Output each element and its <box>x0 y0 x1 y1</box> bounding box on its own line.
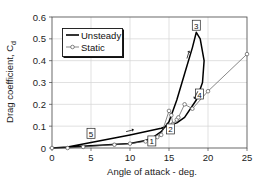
static-data-point <box>191 107 195 111</box>
legend: Unsteady Static <box>63 29 125 59</box>
x-tick-label: 15 <box>164 152 175 163</box>
static-data-point <box>50 146 54 150</box>
y-tick-label: 0.5 <box>33 33 46 44</box>
drag-coefficient-chart: 0510152025 00.10.20.30.40.50.6 12345 Uns… <box>0 0 260 185</box>
legend-static-label: Static <box>81 42 105 53</box>
y-tick-label: 0 <box>41 143 46 154</box>
y-axis-ticks: 00.10.20.30.40.50.6 <box>33 12 52 154</box>
annotation-label-2: 2 <box>168 125 173 134</box>
svg-text:Drag coefficient, Cd: Drag coefficient, Cd <box>4 41 17 123</box>
static-data-point <box>128 142 132 146</box>
annotation-label-5: 5 <box>89 130 94 139</box>
x-tick-label: 20 <box>203 152 214 163</box>
y-tick-label: 0.6 <box>33 12 46 23</box>
x-axis-ticks: 0510152025 <box>49 148 252 163</box>
legend-unsteady-label: Unsteady <box>81 30 121 41</box>
x-axis-label: Angle of attack - deg. <box>107 166 197 177</box>
y-axis-label: Drag coefficient, Cd <box>4 41 17 123</box>
y-axis-label-sub: d <box>10 41 17 45</box>
static-data-point <box>206 89 210 93</box>
y-tick-label: 0.4 <box>33 55 46 66</box>
x-tick-label: 10 <box>125 152 136 163</box>
x-tick-label: 0 <box>49 152 54 163</box>
static-data-point <box>81 145 85 149</box>
y-axis-label-text: Drag coefficient, C <box>4 45 15 123</box>
x-tick-label: 25 <box>242 152 253 163</box>
y-tick-label: 0.1 <box>33 121 46 132</box>
static-data-point <box>159 133 163 137</box>
static-data-point <box>177 116 181 120</box>
y-tick-label: 0.3 <box>33 77 46 88</box>
static-data-point <box>144 140 148 144</box>
x-tick-label: 5 <box>88 152 93 163</box>
static-data-point <box>113 143 117 147</box>
direction-arrow-icon <box>187 52 189 58</box>
series-static-line <box>52 54 247 148</box>
annotation-label-3: 3 <box>194 22 199 31</box>
annotation-label-1: 1 <box>150 137 155 146</box>
static-data-point <box>167 109 171 113</box>
static-data-point <box>183 103 187 107</box>
legend-static-marker <box>71 45 75 49</box>
static-data-point <box>170 113 174 117</box>
y-tick-label: 0.2 <box>33 99 46 110</box>
static-data-point <box>66 146 70 150</box>
static-data-point <box>245 52 249 56</box>
direction-arrow-icon <box>126 130 132 132</box>
